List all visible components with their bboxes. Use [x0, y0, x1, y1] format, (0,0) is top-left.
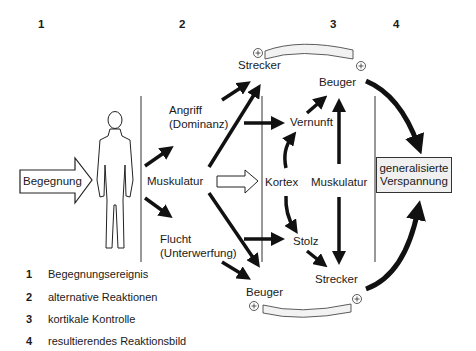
label-muskulatur-left: Muskulatur: [147, 175, 203, 188]
legend-item-4: 4resultierendes Reaktionsbild: [26, 335, 186, 347]
result-line-1: generalisierte: [377, 162, 451, 175]
bottom-band: [263, 304, 351, 317]
legend-item-3: 3kortikale Kontrolle: [26, 313, 135, 325]
label-kortex: Kortex: [265, 176, 298, 189]
stage-number-4: 4: [393, 18, 399, 30]
label-dominanz: (Dominanz): [169, 118, 228, 131]
label-stolz: Stolz: [293, 235, 319, 248]
result-box: generalisierte Verspannung: [376, 157, 452, 193]
open-arrow: [217, 170, 258, 193]
stage-number-1: 1: [38, 18, 44, 30]
label-vernunft: Vernunft: [290, 116, 333, 129]
label-unterwerfung: (Unterwerfung): [160, 247, 237, 260]
label-strecker-top: Strecker: [238, 59, 281, 72]
legend-item-2: 2alternative Reaktionen: [26, 291, 157, 303]
label-muskulatur-right: Muskulatur: [311, 176, 367, 189]
label-beuger-bottom: Beuger: [246, 286, 283, 299]
stage-number-2: 2: [179, 18, 185, 30]
label-begegnung: Begegnung: [23, 175, 82, 188]
result-line-2: Verspannung: [377, 175, 451, 188]
label-beuger-top: Beuger: [319, 76, 356, 89]
legend-item-1: 1Begegnungsereignis: [26, 268, 148, 280]
label-strecker-bottom: Strecker: [315, 273, 358, 286]
human-figure-icon: [97, 112, 133, 249]
label-flucht: Flucht: [160, 233, 191, 246]
stage-number-3: 3: [330, 18, 336, 30]
label-angriff: Angriff: [169, 104, 202, 117]
top-band: [265, 44, 353, 59]
